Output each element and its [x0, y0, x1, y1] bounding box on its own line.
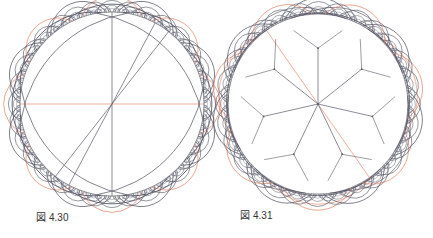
ray-line: [318, 104, 372, 116]
caption-prefix: 図: [36, 212, 46, 223]
ray-line: [294, 104, 318, 154]
branch-line: [328, 154, 342, 180]
caption-figure-4-31: 図4.31: [240, 207, 272, 222]
geodesic-arc: [34, 157, 59, 182]
branch-line: [252, 116, 264, 144]
branch-line: [274, 39, 275, 69]
branch-line: [362, 69, 391, 77]
geodesic-arc: [21, 13, 127, 119]
branch-line: [342, 154, 372, 159]
branch-line: [294, 31, 318, 49]
branch-line: [294, 154, 308, 180]
branch-line: [245, 69, 274, 77]
branch-line: [318, 31, 342, 49]
caption-number: 4.30: [49, 212, 68, 223]
center-dot: [317, 103, 319, 105]
poincare-disk-figure-4-30: [4, 0, 221, 212]
caption-number: 4.31: [253, 210, 272, 221]
geodesic-arc: [97, 89, 203, 195]
ray-line: [318, 104, 342, 154]
branch-line: [372, 97, 395, 117]
geodesic-arc: [219, 37, 258, 139]
branch-line: [372, 116, 384, 144]
caption-prefix: 図: [240, 210, 250, 221]
branch-line: [264, 154, 294, 159]
geodesic-arc: [165, 157, 190, 182]
geodesic-arc: [20, 12, 101, 93]
ray-line: [274, 69, 318, 104]
caption-figure-4-30: 図4.30: [36, 209, 68, 224]
figure-canvas: [0, 0, 433, 238]
ray-line: [318, 69, 362, 104]
branch-line: [360, 39, 361, 69]
poincare-disk-figure-4-31: [213, 0, 422, 210]
geodesic-arc: [34, 26, 59, 51]
branch-line: [241, 97, 264, 117]
ray-line: [264, 104, 318, 116]
geodesic-arc: [165, 26, 190, 51]
